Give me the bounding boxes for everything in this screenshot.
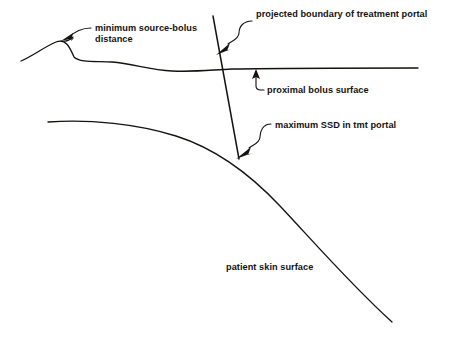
minimum-source-bolus-arrow-icon: [61, 33, 74, 41]
bolus-surface-curve: [21, 41, 418, 71]
annotation-minimum-source-bolus-distance: minimum source-bolus distance: [61, 23, 197, 44]
label-minimum-source-bolus-line1: minimum source-bolus: [95, 23, 197, 33]
projected-boundary-leader: [228, 21, 252, 44]
proximal-bolus-leader: [256, 76, 264, 90]
bolus-treatment-portal-diagram: minimum source-bolus distance projected …: [0, 0, 463, 345]
projected-portal-boundary-line: [213, 16, 239, 159]
patient-skin-surface-curve: [48, 121, 392, 322]
annotation-patient-skin-surface: patient skin surface: [226, 262, 313, 272]
label-patient-skin-surface: patient skin surface: [226, 262, 313, 272]
annotation-projected-boundary: projected boundary of treatment portal: [216, 9, 427, 55]
diagram-canvas-root: minimum source-bolus distance projected …: [0, 0, 463, 345]
maximum-ssd-leader: [249, 124, 271, 148]
label-proximal-bolus-surface: proximal bolus surface: [267, 85, 369, 95]
label-projected-boundary: projected boundary of treatment portal: [256, 9, 427, 19]
label-minimum-source-bolus-line2: distance: [95, 34, 133, 44]
annotation-proximal-bolus-surface: proximal bolus surface: [252, 69, 369, 95]
label-maximum-ssd: maximum SSD in tmt portal: [275, 120, 396, 130]
annotation-maximum-ssd: maximum SSD in tmt portal: [236, 120, 396, 159]
